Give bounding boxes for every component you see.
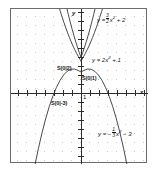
equation-constant: + 1 (112, 57, 121, 63)
graph-screenshot: y x 1 S(0|2) S(0|1) S(0|-3) y =32x2 + 2 … (0, 0, 158, 174)
x-axis-tick-label-one: 1 (83, 94, 86, 100)
y-axis-tick (78, 156, 84, 157)
x-axis-tick (135, 90, 136, 96)
vertex-label-upper-wide: S(0|2) (57, 66, 71, 72)
equation-lhs: y = − (98, 131, 111, 137)
x-axis-tick (63, 90, 64, 96)
vertex-label-upper-narrow: S(0|1) (82, 76, 96, 82)
equation-lhs: y = (97, 17, 105, 23)
y-axis-tick (78, 147, 84, 148)
vertex-label-lower: S(0|-3) (51, 101, 67, 107)
y-axis-tick (78, 111, 84, 112)
y-axis-tick (78, 120, 84, 121)
equation-label-minus-third: y = −13x2 − 3 (98, 127, 132, 138)
y-axis-tick (78, 102, 84, 103)
equation-exponent: 2 (119, 129, 121, 134)
equation-label-two: y = 2x2 + 1 (92, 57, 121, 63)
x-axis-tick (72, 90, 73, 96)
x-axis-tick (45, 90, 46, 96)
y-axis-line (81, 9, 82, 164)
equation-exponent: 2 (108, 55, 110, 60)
x-axis-tick (18, 90, 19, 96)
y-axis-tick (78, 48, 84, 49)
y-axis-tick (78, 57, 84, 58)
x-axis-tick (117, 90, 118, 96)
equation-exponent: 2 (113, 15, 115, 20)
x-axis-tick (108, 90, 109, 96)
y-axis-tick (78, 66, 84, 67)
y-axis-tick (78, 21, 84, 22)
y-axis-tick (78, 84, 84, 85)
x-axis-tick (27, 90, 28, 96)
x-axis-tick (126, 90, 127, 96)
y-axis-tick (78, 12, 84, 13)
equation-constant: − 3 (123, 131, 132, 137)
equation-label-three-halves: y =32x2 + 2 (97, 13, 125, 24)
x-axis-tick (36, 90, 37, 96)
equation-lhs: y = (92, 57, 100, 63)
x-axis-tick (99, 90, 100, 96)
x-axis-label: x (140, 89, 143, 95)
y-axis-tick (78, 39, 84, 40)
x-axis-line (11, 93, 148, 94)
y-axis-tick (78, 30, 84, 31)
y-axis-label: y (72, 10, 75, 16)
x-axis-tick (54, 90, 55, 96)
equation-constant: + 2 (117, 17, 126, 23)
x-axis-tick (144, 90, 145, 96)
y-axis-tick (78, 138, 84, 139)
y-axis-tick (78, 129, 84, 130)
x-axis-tick (90, 90, 91, 96)
curves-layer (11, 9, 148, 164)
plot-frame (10, 8, 147, 163)
